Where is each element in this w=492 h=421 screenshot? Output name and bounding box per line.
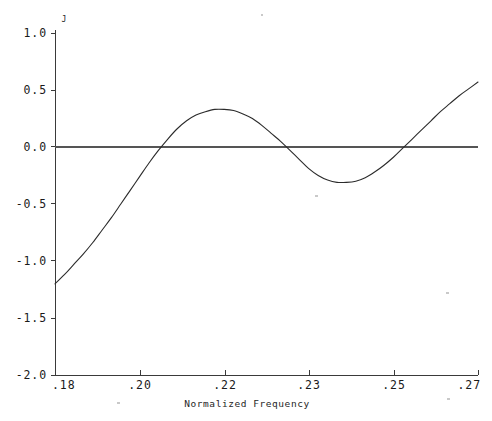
y-tick-label-1: 1.0 bbox=[24, 26, 47, 40]
x-tick-label-5: .25 bbox=[382, 378, 405, 392]
y-tick-label-3: 0.0 bbox=[24, 140, 47, 154]
scan-speck bbox=[315, 195, 318, 197]
y-tick-label-4: -0.5 bbox=[16, 197, 47, 211]
y-tick-label-2: 0.5 bbox=[24, 83, 47, 97]
y-tick-label-5: -1.0 bbox=[16, 254, 47, 268]
y-axis-title: J bbox=[61, 15, 66, 24]
y-tick-label-6: -1.5 bbox=[16, 311, 47, 325]
scan-speck bbox=[261, 14, 263, 16]
y-axis-ticks bbox=[51, 33, 55, 375]
data-curve-J bbox=[55, 82, 478, 284]
x-tick-label-6: .27 bbox=[458, 378, 481, 392]
x-axis-title: Normalized Frequency bbox=[184, 398, 309, 409]
scan-speck bbox=[117, 402, 120, 404]
x-tick-label-4: .23 bbox=[297, 378, 320, 392]
y-tick-label-7: -2.0 bbox=[16, 368, 47, 382]
x-tick-label-2: .20 bbox=[128, 378, 151, 392]
x-tick-label-1: .18 bbox=[52, 378, 75, 392]
line-chart-plot: J 1.0 0.5 0.0 -0.5 -1.0 -1.5 -2.0 bbox=[0, 0, 492, 421]
scan-speck bbox=[447, 398, 450, 400]
x-tick-label-3: .22 bbox=[213, 378, 236, 392]
x-axis-ticks bbox=[55, 370, 478, 375]
scan-speck bbox=[446, 292, 449, 294]
chart-figure: J 1.0 0.5 0.0 -0.5 -1.0 -1.5 -2.0 bbox=[0, 0, 492, 421]
